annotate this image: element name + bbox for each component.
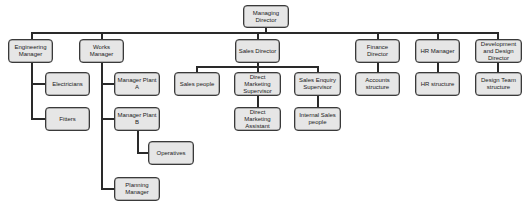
connector <box>257 32 259 39</box>
connector <box>257 95 259 107</box>
node-fitters: Fitters <box>45 107 90 131</box>
connector <box>497 32 499 39</box>
node-sales-director: Sales Director <box>235 39 280 63</box>
node-direct-marketing-supervisor: Direct Marketing Supervisor <box>234 72 281 96</box>
connector <box>377 62 379 72</box>
node-design-team-structure: Design Team structure <box>475 72 522 96</box>
node-direct-marketing-assistant: Direct Marketing Assistant <box>234 107 281 131</box>
connector <box>137 152 148 154</box>
node-hr-structure: HR structure <box>415 72 460 96</box>
node-electricians: Electricians <box>45 72 90 96</box>
connector <box>101 83 114 85</box>
node-manager-plant-b: Manager Plant B <box>114 107 160 131</box>
node-dev-design-director: Development and Design Director <box>475 39 522 63</box>
node-works-manager: Works Manager <box>79 39 124 63</box>
connector <box>101 32 103 39</box>
connector <box>377 32 379 39</box>
node-sales-enquiry-supervisor: Sales Enquiry Supervisor <box>294 72 341 96</box>
connector <box>31 62 33 119</box>
connector <box>31 118 45 120</box>
node-managing-director: Managing Director <box>243 5 289 28</box>
node-operatives: Operatives <box>148 141 194 165</box>
node-manager-plant-a: Manager Plant A <box>114 72 160 96</box>
connector <box>497 62 499 72</box>
node-hr-manager: HR Manager <box>415 39 460 63</box>
node-engineering-manager: Engineering Manager <box>8 39 53 63</box>
node-sales-people: Sales people <box>174 72 220 96</box>
connector <box>437 62 439 72</box>
connector <box>101 188 114 190</box>
connector <box>101 118 114 120</box>
connector <box>31 83 45 85</box>
connector <box>101 62 103 189</box>
org-chart: Managing Director Engineering Manager Wo… <box>0 0 532 203</box>
node-planning-manager: Planning Manager <box>114 177 160 201</box>
connector <box>317 95 319 107</box>
connector <box>31 32 33 39</box>
node-finance-director: Finance Director <box>355 39 400 63</box>
node-accounts-structure: Accounts structure <box>355 72 400 96</box>
connector <box>137 130 139 153</box>
connector <box>437 32 439 39</box>
node-internal-sales-people: Internal Sales people <box>294 107 341 131</box>
